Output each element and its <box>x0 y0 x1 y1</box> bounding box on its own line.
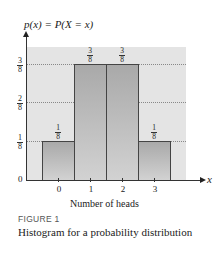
bar-1 <box>74 64 107 181</box>
x-axis-title: Number of heads <box>70 198 139 209</box>
ytick-3-8: 38 <box>13 57 27 74</box>
bar-label-1: 38 <box>83 47 97 64</box>
y-axis-title: p(x) = P(X = x) <box>24 18 93 30</box>
bar-0 <box>42 141 75 181</box>
ytick-2-8: 28 <box>13 95 27 112</box>
xtick-mark-1 <box>90 178 91 182</box>
x-axis-variable: x <box>207 173 212 185</box>
xtick-label-0: 0 <box>52 184 66 194</box>
x-axis <box>26 180 200 181</box>
y-axis-arrow-icon <box>23 31 29 37</box>
xtick-label-1: 1 <box>84 184 98 194</box>
ytick-1-8: 18 <box>13 134 27 151</box>
bar-label-2: 38 <box>115 47 129 64</box>
bar-label-0: 18 <box>51 124 65 141</box>
figure-label: FIGURE 1 <box>18 214 60 224</box>
bar-label-3: 18 <box>147 124 161 141</box>
xtick-mark-3 <box>154 178 155 182</box>
x-axis-arrow-icon <box>200 177 206 183</box>
xtick-mark-0 <box>58 178 59 182</box>
xtick-label-2: 2 <box>116 184 130 194</box>
ytick-0: 0 <box>18 174 23 184</box>
xtick-label-3: 3 <box>148 184 162 194</box>
bar-2 <box>106 64 139 181</box>
xtick-mark-2 <box>122 178 123 182</box>
bar-3 <box>138 141 171 181</box>
figure-caption: Histogram for a probability distribution <box>18 226 208 239</box>
